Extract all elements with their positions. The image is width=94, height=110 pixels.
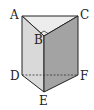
vertex-label-f: F bbox=[80, 69, 88, 83]
vertex-label-b: B bbox=[34, 33, 43, 47]
vertex-label-d: D bbox=[10, 69, 20, 83]
vertex-label-e: E bbox=[39, 94, 48, 108]
vertex-label-a: A bbox=[9, 8, 19, 22]
vertex-label-c: C bbox=[80, 8, 89, 22]
prism-diagram: A C B D F E bbox=[0, 0, 94, 110]
